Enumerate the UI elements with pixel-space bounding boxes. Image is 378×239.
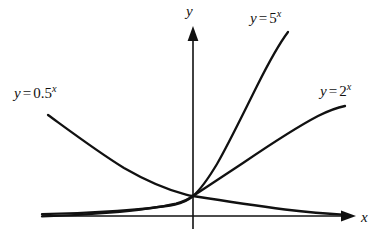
curve-label-five-lhs: y — [250, 10, 257, 26]
y-axis-arrowhead-icon — [188, 26, 199, 41]
curve-label-five: y=5x — [250, 11, 281, 26]
x-axis-arrowhead-icon — [341, 211, 356, 222]
curve-label-five-operator: = — [257, 10, 269, 26]
curve-label-two-exponent: x — [347, 81, 352, 92]
curve-label-half-lhs: y — [14, 85, 21, 101]
curve-label-half-exponent: x — [52, 83, 57, 94]
curve-label-five-exponent: x — [277, 8, 282, 19]
curve-label-half-base: 0.5 — [33, 85, 52, 101]
curve-label-half: y=0.5x — [14, 86, 56, 101]
curve-label-two-operator: = — [327, 83, 339, 99]
curve-y-equals-0-point-5-to-the-x — [48, 115, 343, 215]
y-axis-label: y — [186, 4, 193, 19]
exponential-functions-figure: y=0.5x y=5x y=2x y x — [0, 0, 378, 239]
curve-label-two: y=2x — [320, 84, 351, 99]
curve-label-half-operator: = — [21, 85, 33, 101]
curve-label-two-lhs: y — [320, 83, 327, 99]
graph-canvas — [0, 0, 378, 239]
curve-label-five-base: 5 — [269, 10, 277, 26]
curve-label-two-base: 2 — [339, 83, 347, 99]
x-axis-label: x — [361, 210, 368, 225]
